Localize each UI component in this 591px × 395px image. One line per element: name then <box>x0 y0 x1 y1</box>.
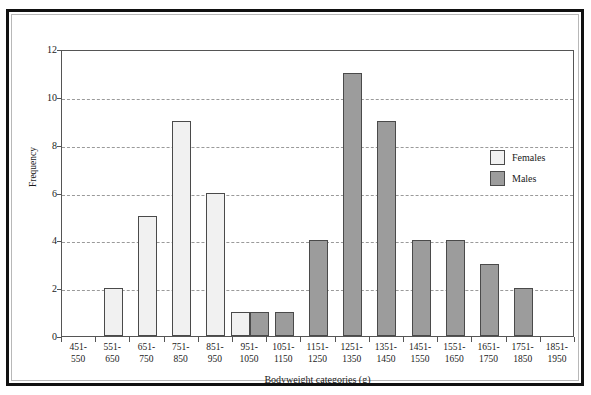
legend-label-female: Females <box>512 152 545 163</box>
x-tick-label-bottom: 1450 <box>369 354 403 366</box>
x-tick-label-top: 1751- <box>506 342 540 354</box>
legend-item-male: Males <box>490 168 591 189</box>
y-tick-label-8: 8 <box>31 141 57 151</box>
x-tick-label-bottom: 1950 <box>540 354 574 366</box>
bar-males-13 <box>514 288 533 336</box>
x-tick-label-top: 1451- <box>403 342 437 354</box>
legend-swatch-male <box>490 171 505 186</box>
y-tick-label-12: 12 <box>31 45 57 55</box>
x-tick-label-bottom: 1750 <box>471 354 505 366</box>
y-tick-label-0: 0 <box>31 332 57 342</box>
x-tick-label-top: 551- <box>95 342 129 354</box>
x-tick-label-1: 551-650 <box>95 342 129 365</box>
bar-males-10 <box>412 240 431 336</box>
x-tick-label-top: 951- <box>232 342 266 354</box>
bar-males-8 <box>343 73 362 336</box>
x-tick-label-0: 451-550 <box>61 342 95 365</box>
bar-females-3 <box>172 121 191 336</box>
bar-females-5 <box>231 312 250 336</box>
y-tick-label-2: 2 <box>31 284 57 294</box>
x-tick-label-top: 751- <box>164 342 198 354</box>
x-tick-label-bottom: 850 <box>164 354 198 366</box>
x-tick-label-top: 1551- <box>437 342 471 354</box>
x-tick-label-top: 1151- <box>300 342 334 354</box>
x-tick-label-3: 751-850 <box>164 342 198 365</box>
x-tick-label-top: 1251- <box>335 342 369 354</box>
bar-males-12 <box>480 264 499 336</box>
x-tick-label-top: 851- <box>198 342 232 354</box>
x-tick-label-6: 1051-1150 <box>266 342 300 365</box>
x-tick-label-bottom: 550 <box>61 354 95 366</box>
y-axis-tick-labels: 024681012 <box>25 50 57 337</box>
x-tick-label-14: 1851-1950 <box>540 342 574 365</box>
x-tick-mark-15 <box>574 337 575 342</box>
y-tick-label-6: 6 <box>31 189 57 199</box>
x-tick-label-bottom: 950 <box>198 354 232 366</box>
bar-males-11 <box>446 240 465 336</box>
chart-legend: FemalesMales <box>490 147 591 189</box>
x-tick-label-12: 1651-1750 <box>471 342 505 365</box>
x-tick-label-bottom: 1650 <box>437 354 471 366</box>
x-axis-tick-labels: 451-550551-650651-750751-850851-950951-1… <box>61 342 574 372</box>
bar-males-9 <box>377 121 396 336</box>
x-tick-label-5: 951-1050 <box>232 342 266 365</box>
x-tick-label-top: 651- <box>129 342 163 354</box>
bar-males-7 <box>309 240 328 336</box>
x-tick-label-bottom: 650 <box>95 354 129 366</box>
bar-females-1 <box>104 288 123 336</box>
x-tick-label-10: 1451-1550 <box>403 342 437 365</box>
bars-layer <box>62 51 573 336</box>
x-tick-label-top: 1651- <box>471 342 505 354</box>
bar-females-4 <box>206 193 225 337</box>
bar-males-5 <box>250 312 269 336</box>
x-tick-label-top: 1851- <box>540 342 574 354</box>
x-tick-label-top: 1351- <box>369 342 403 354</box>
x-tick-label-2: 651-750 <box>129 342 163 365</box>
figure-frame: Frequency 024681012 FemalesMales 451-550… <box>6 9 584 386</box>
x-tick-label-bottom: 1350 <box>335 354 369 366</box>
x-tick-label-bottom: 1050 <box>232 354 266 366</box>
x-tick-label-bottom: 1150 <box>266 354 300 366</box>
x-axis-title: Bodyweight categories (g) <box>61 374 574 385</box>
legend-swatch-female <box>490 150 505 165</box>
bar-males-6 <box>275 312 294 336</box>
x-tick-label-bottom: 1850 <box>506 354 540 366</box>
x-tick-label-8: 1251-1350 <box>335 342 369 365</box>
plot-area: FemalesMales <box>61 50 574 337</box>
x-tick-label-bottom: 750 <box>129 354 163 366</box>
x-tick-label-4: 851-950 <box>198 342 232 365</box>
x-tick-label-top: 1051- <box>266 342 300 354</box>
legend-label-male: Males <box>512 173 536 184</box>
x-tick-label-top: 451- <box>61 342 95 354</box>
y-tick-label-4: 4 <box>31 236 57 246</box>
y-tick-label-10: 10 <box>31 93 57 103</box>
legend-item-female: Females <box>490 147 591 168</box>
x-tick-label-9: 1351-1450 <box>369 342 403 365</box>
x-tick-label-7: 1151-1250 <box>300 342 334 365</box>
x-tick-label-bottom: 1550 <box>403 354 437 366</box>
x-tick-label-13: 1751-1850 <box>506 342 540 365</box>
bar-females-2 <box>138 216 157 336</box>
x-tick-label-11: 1551-1650 <box>437 342 471 365</box>
x-tick-label-bottom: 1250 <box>300 354 334 366</box>
